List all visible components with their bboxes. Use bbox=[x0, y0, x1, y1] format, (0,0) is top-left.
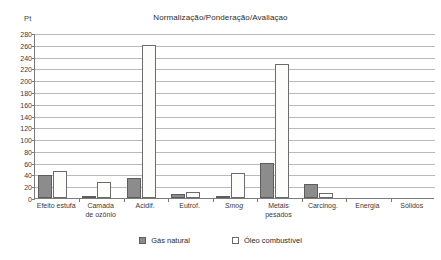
x-axis-label: Smog bbox=[212, 201, 256, 210]
y-axis-tick-label: 80 bbox=[24, 148, 32, 155]
legend-item-label: Gás natural bbox=[151, 236, 190, 245]
y-axis-tick-label: 40 bbox=[24, 172, 32, 179]
bar bbox=[97, 182, 111, 199]
x-axis-label-line: Energia bbox=[345, 201, 389, 210]
y-axis-tick-label: 220 bbox=[20, 66, 32, 73]
x-axis-label: Energia bbox=[345, 201, 389, 210]
y-axis-tick-label: 180 bbox=[20, 89, 32, 96]
y-axis-tick-label: 260 bbox=[20, 42, 32, 49]
y-axis-tick-label: 120 bbox=[20, 125, 32, 132]
x-axis-label: Eutrof. bbox=[167, 201, 211, 210]
bars-group bbox=[35, 33, 435, 198]
y-axis-tick-label: 140 bbox=[20, 113, 32, 120]
chart-container: Pt Normalização/Ponderação/Avaliaçao 020… bbox=[0, 0, 441, 260]
y-axis-tick-label: 20 bbox=[24, 184, 32, 191]
x-axis-label: Carcinog. bbox=[301, 201, 345, 210]
x-axis-label-line: Carcinog. bbox=[301, 201, 345, 210]
x-axis-label-line: Camada bbox=[78, 201, 122, 210]
bar bbox=[275, 64, 289, 198]
plot-area: 020406080100120140160180200220240260280 bbox=[34, 34, 434, 199]
y-axis-tick-label: 160 bbox=[20, 101, 32, 108]
bar bbox=[186, 192, 200, 198]
y-axis-tick-mark bbox=[32, 199, 35, 200]
x-axis-label: Efeito estufa bbox=[34, 201, 78, 210]
legend-swatch-icon bbox=[139, 237, 146, 244]
bar bbox=[38, 175, 52, 198]
x-axis-label-line: Metais bbox=[256, 201, 300, 210]
bar bbox=[319, 193, 333, 198]
bar bbox=[260, 163, 274, 198]
y-axis-tick-label: 280 bbox=[20, 31, 32, 38]
bar bbox=[82, 196, 96, 198]
x-axis-label-line: Acidif. bbox=[123, 201, 167, 210]
y-axis-tick-label: 200 bbox=[20, 78, 32, 85]
legend-item: Óleo combustível bbox=[232, 236, 302, 245]
x-axis-label-line: pesados bbox=[256, 210, 300, 219]
x-axis-label-line: Sólidos bbox=[390, 201, 434, 210]
bar bbox=[304, 184, 318, 198]
x-axis-label-line: Eutrof. bbox=[167, 201, 211, 210]
x-axis-label-line: Smog bbox=[212, 201, 256, 210]
x-axis-labels-group: Efeito estufaCamadade ozônioAcidif.Eutro… bbox=[34, 201, 434, 231]
x-axis-label: Camadade ozônio bbox=[78, 201, 122, 219]
legend-swatch-icon bbox=[232, 237, 239, 244]
x-axis-label: Metaispesados bbox=[256, 201, 300, 219]
bar bbox=[171, 194, 185, 198]
x-axis-label-line: de ozônio bbox=[78, 210, 122, 219]
y-axis-tick-label: 60 bbox=[24, 160, 32, 167]
legend-item-label: Óleo combustível bbox=[244, 236, 302, 245]
bar bbox=[142, 45, 156, 198]
bar bbox=[216, 196, 230, 198]
y-axis-tick-label: 100 bbox=[20, 137, 32, 144]
x-axis-label: Sólidos bbox=[390, 201, 434, 210]
x-axis-label: Acidif. bbox=[123, 201, 167, 210]
x-axis-label-line: Efeito estufa bbox=[34, 201, 78, 210]
bar bbox=[127, 178, 141, 198]
y-axis-tick-label: 0 bbox=[28, 196, 32, 203]
chart-title: Normalização/Ponderação/Avaliaçao bbox=[0, 13, 441, 22]
legend-item: Gás natural bbox=[139, 236, 190, 245]
bar bbox=[53, 171, 67, 198]
chart-legend: Gás naturalÓleo combustível bbox=[0, 236, 441, 245]
bar bbox=[231, 173, 245, 198]
y-axis-tick-label: 240 bbox=[20, 54, 32, 61]
